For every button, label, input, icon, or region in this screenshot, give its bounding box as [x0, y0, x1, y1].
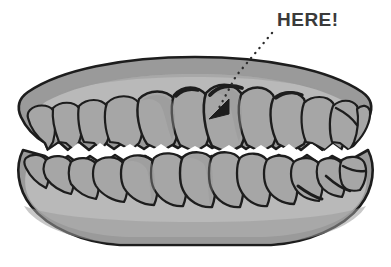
here-callout-label: HERE! [277, 10, 339, 30]
lower-tooth-molar-right-1 [340, 157, 366, 191]
illustration-canvas: HERE! [0, 0, 391, 267]
upper-tooth-molar-left-2 [28, 106, 56, 151]
upper-dental-arch [19, 57, 371, 153]
dental-illustration [0, 0, 391, 267]
